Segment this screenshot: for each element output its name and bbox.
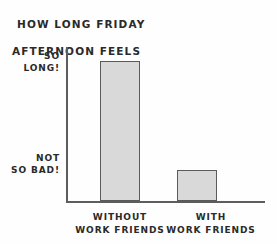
y-axis-line xyxy=(66,47,68,203)
bar-without-work-friends xyxy=(100,61,140,201)
chart-title-line-1: HOW LONG FRIDAY xyxy=(17,18,257,32)
bar-with-work-friends xyxy=(177,170,217,201)
x-axis-category-label-2-line-2: WORK FRIENDS xyxy=(150,224,272,237)
y-axis-tick-label-high-line-2: LONG! xyxy=(4,62,60,74)
y-axis-tick-label-low: NOT SO BAD! xyxy=(4,152,60,176)
y-axis-tick-label-low-line-2: SO BAD! xyxy=(4,164,60,176)
bar-chart: HOW LONG FRIDAY AFTERNOON FEELS SO LONG!… xyxy=(0,0,277,244)
y-axis-tick-label-high-line-1: SO xyxy=(4,50,60,62)
y-axis-tick-label-low-line-1: NOT xyxy=(4,152,60,164)
x-axis-line xyxy=(66,201,265,203)
x-axis-category-label-2-line-1: WITH xyxy=(150,211,272,224)
x-axis-category-label-2: WITH WORK FRIENDS xyxy=(150,211,272,237)
y-axis-tick-label-high: SO LONG! xyxy=(4,50,60,74)
